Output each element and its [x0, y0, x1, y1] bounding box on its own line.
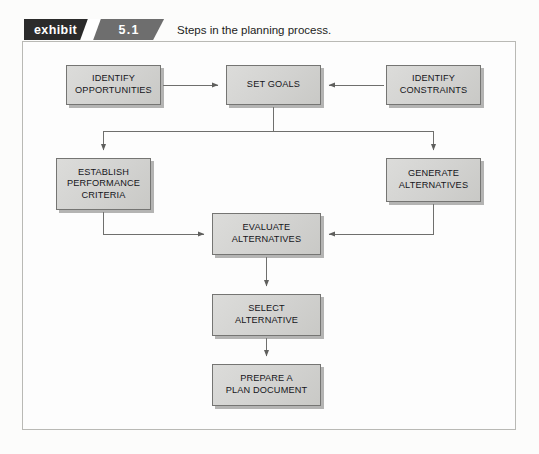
flow-node-label: PREPARE A PLAN DOCUMENT	[226, 373, 308, 396]
flow-node-set-goals: SET GOALS	[226, 65, 321, 105]
flow-node-evaluate-alternatives: EVALUATE ALTERNATIVES	[212, 213, 321, 255]
exhibit-header: exhibit 5.1 Steps in the planning proces…	[24, 19, 331, 40]
flow-node-select-alternative: SELECT ALTERNATIVE	[212, 294, 321, 336]
flow-node-label: SET GOALS	[247, 79, 300, 91]
flow-node-establish-performance-criteria: ESTABLISH PERFORMANCE CRITERIA	[56, 158, 151, 210]
exhibit-number: 5.1	[90, 19, 164, 40]
flow-node-prepare-a-plan-document: PREPARE A PLAN DOCUMENT	[212, 364, 321, 406]
exhibit-tag-label: exhibit	[24, 19, 88, 40]
flow-node-identify-opportunities: IDENTIFY OPPORTUNITIES	[66, 65, 161, 105]
flow-node-identify-constraints: IDENTIFY CONSTRAINTS	[386, 65, 481, 105]
flow-node-label: EVALUATE ALTERNATIVES	[232, 222, 301, 245]
flow-node-generate-alternatives: GENERATE ALTERNATIVES	[386, 158, 481, 202]
exhibit-caption: Steps in the planning process.	[177, 19, 331, 40]
flow-node-label: GENERATE ALTERNATIVES	[399, 168, 468, 191]
flow-node-label: SELECT ALTERNATIVE	[235, 303, 298, 326]
flow-node-label: IDENTIFY OPPORTUNITIES	[75, 73, 152, 96]
flow-node-label: IDENTIFY CONSTRAINTS	[400, 73, 468, 96]
flow-node-label: ESTABLISH PERFORMANCE CRITERIA	[67, 167, 140, 202]
